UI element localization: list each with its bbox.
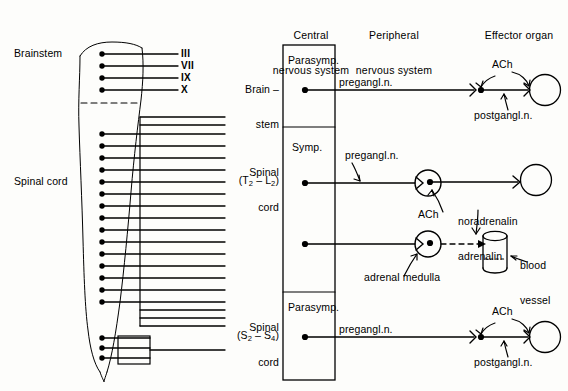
figure-canvas: Central nervous system Peripheral nervou… (0, 0, 568, 391)
row3-vessel-line2: vessel (520, 295, 550, 307)
row2-origin-level: (T2 – L2) (225, 175, 279, 188)
cranial-nerve-label-III: III (181, 48, 190, 59)
thoracolumbar-cellbodies (99, 131, 104, 304)
cns-outline (79, 42, 143, 382)
row2-level-dash: – L (253, 174, 271, 186)
row2-level-close: ) (275, 174, 279, 186)
row2-origin-line2: cord (229, 202, 279, 214)
row2-pregangl-pointer (352, 163, 360, 181)
row1-origin-label: Brain – stem (233, 60, 279, 154)
row1-origin-line2: stem (233, 119, 279, 131)
row4-postganglionic-label: postgangl.n. (474, 357, 532, 369)
row4-level-dash: – S (252, 329, 271, 341)
row3-ganglion-cellbody (427, 240, 433, 246)
header-effector-line1: Effector organ (470, 30, 568, 42)
row4-origin-level: (S2 – S4) (225, 330, 279, 343)
label-spinal-cord: Spinal cord (14, 176, 68, 188)
row2-noradrenalin: noradrenalin (458, 216, 518, 228)
row2-level-open: (T (239, 174, 249, 186)
row3-blood-vessel-label: blood vessel (520, 236, 550, 330)
row1-origin-line1: Brain – (233, 84, 279, 96)
row4-transmitter-ach: ACh (492, 306, 513, 318)
row1-division-label: Parasymp. (288, 55, 339, 67)
row4-cns-cellbody (302, 334, 308, 340)
sacral-cellbodies (99, 335, 104, 360)
row1-transmitter-ach: ACh (492, 59, 513, 71)
row2-division-label: Symp. (292, 142, 322, 154)
row4-level-open: (S (237, 329, 248, 341)
row3-ganglion-synapse (416, 238, 423, 250)
row2-cns-cellbody (302, 180, 308, 186)
chain-postganglionic-inferior (140, 310, 225, 326)
row4-origin-line2: cord (229, 357, 279, 369)
cranial-nerve-label-IX: IX (181, 72, 191, 83)
row2-ganglion-synapse (416, 177, 423, 189)
sacral-outflow (102, 336, 225, 364)
row3-cns-cellbody (302, 241, 308, 247)
chain-postganglionic-superior (140, 117, 225, 125)
row1-preganglionic-label: pregangl.n. (339, 77, 393, 89)
thoracolumbar-fibers (102, 134, 225, 302)
row3-adrenal-medulla-label: adrenal medulla (364, 272, 440, 284)
row4-preganglionic-label: pregangl.n. (339, 324, 393, 336)
row2-preganglionic-label: pregangl.n. (345, 150, 399, 162)
row2-ganglion-transmitter: ACh (418, 209, 439, 221)
row4-origin-label: Spinal cord (229, 298, 279, 391)
row4-division-label: Parasymp. (288, 302, 339, 314)
label-brainstem: Brainstem (14, 48, 62, 60)
row2-effector-organ (521, 165, 552, 196)
row4-level-close: ) (275, 329, 279, 341)
cranial-nerve-label-VII: VII (181, 60, 194, 71)
header-peripheral-line1: Peripheral (332, 30, 456, 42)
row2-adrenalin: adrenalin (458, 251, 518, 263)
header-effector-organ: Effector organ (470, 6, 568, 65)
cranial-nerve-cellbodies (99, 51, 104, 92)
row1-effector-organ (530, 75, 561, 106)
row3-vessel-line1: blood (520, 260, 550, 272)
cranial-nerve-fibers (102, 54, 178, 90)
row1-postganglionic-label: postgangl.n. (474, 110, 532, 122)
header-peripheral-line2: nervous system (332, 65, 456, 77)
row2-origin-label: Spinal cord (229, 143, 279, 237)
cranial-nerve-label-X: X (181, 84, 188, 95)
row2-catecholamine-labels: noradrenalin adrenalin (458, 192, 518, 286)
